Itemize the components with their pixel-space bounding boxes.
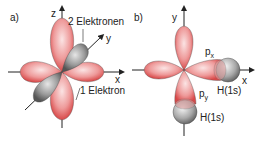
one-electron-label: 1 Elektron (80, 86, 125, 96)
lobe-y-top (175, 26, 193, 70)
lobe-x-left-b (144, 61, 184, 79)
z-axis-label: z (51, 9, 56, 19)
panel-b: b) y x px py H(1s) H(1s) (132, 0, 264, 141)
px-label: px (205, 47, 214, 59)
y-axis-label-b: y (172, 13, 177, 23)
two-electrons-label: 2 Elektronen (68, 17, 124, 27)
orbital-diagram-b (132, 0, 264, 141)
panel-b-label: b) (134, 13, 143, 23)
panel-a: a) z 2 Elektronen y x 1 Elektron (0, 0, 132, 141)
h1s-label-y: H(1s) (200, 113, 224, 123)
panel-a-label: a) (10, 13, 19, 23)
py-label: py (199, 89, 208, 101)
x-axis-label: x (115, 75, 120, 85)
y-axis-label: y (106, 34, 111, 44)
h1s-label-x: H(1s) (217, 86, 241, 96)
x-axis-label-b: x (242, 76, 247, 86)
